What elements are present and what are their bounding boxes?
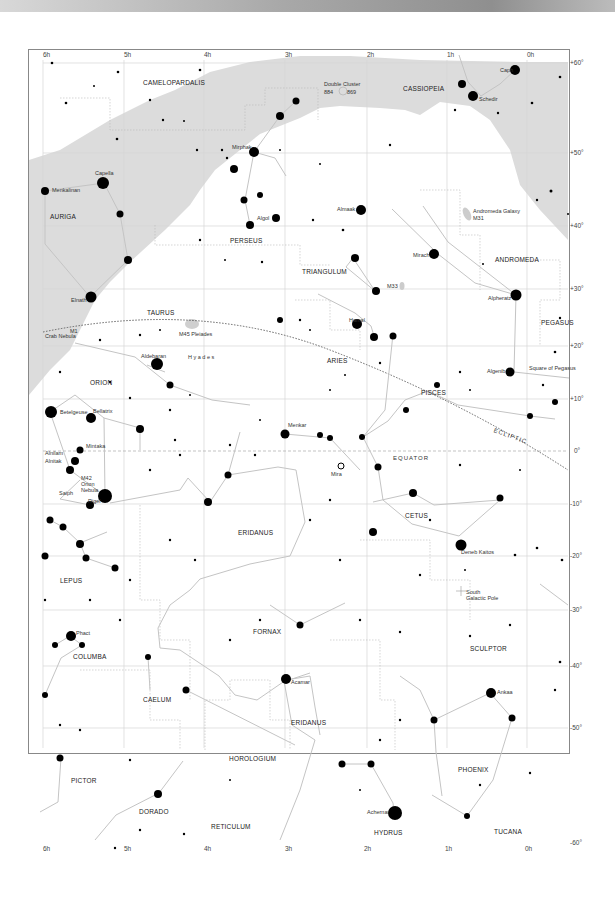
constellation-caelum: CAELUM [143, 697, 171, 704]
constellation-fornax: FORNAX [253, 629, 281, 636]
star-menkalinan: Menkalinan [52, 188, 80, 194]
star-aldebaran: Aldebaran [141, 354, 166, 360]
star-hamal: Hamal [349, 318, 365, 324]
constellation-triangulum: TRIANGULUM [302, 269, 347, 276]
star-algol: Algol [257, 216, 269, 222]
star-chart: 6h 5h 4h 3h 2h 1h 0h 6h 5h 4h 3h 2h 1h 0… [0, 0, 615, 905]
star-mira: Mira [331, 472, 342, 478]
star-chart-graphics [0, 0, 615, 905]
star-elnath: Elnath [71, 298, 87, 304]
constellation-orion: ORION [90, 380, 112, 387]
star-betelgeuse: Betelgeuse [60, 410, 88, 416]
star-algenib: Algenib [487, 369, 505, 375]
ra-label-top-1h: 1h [447, 52, 454, 59]
star-alnitak: Alnitak [45, 459, 62, 465]
constellation-auriga: AURIGA [50, 214, 76, 221]
dec-label-plus60: +60° [570, 60, 584, 67]
constellation-hydrus: HYDRUS [374, 830, 403, 837]
constellation-cetus: CETUS [405, 513, 428, 520]
dec-label-0: 0° [574, 448, 580, 455]
ra-label-bottom-2h: 2h [364, 846, 371, 853]
star-phact: Phact [76, 631, 90, 637]
constellation-tucana: TUCANA [494, 829, 522, 836]
square-of-pegasus-label: Square of Pegasus [529, 365, 576, 371]
south-galactic-pole-label-2: Galactic Pole [466, 595, 498, 601]
constellation-pegasus: PEGASUS [541, 320, 574, 327]
constellation-sculptor: SCULPTOR [470, 646, 507, 653]
constellation-columba: COLUMBA [73, 654, 107, 661]
m1-label: M1 [70, 328, 78, 334]
constellation-horologium: HOROLOGIUM [229, 756, 276, 763]
constellation-dorado: DORADO [139, 809, 169, 816]
star-achernar: Achernar [367, 810, 389, 816]
hyades-label: H y a d e s [188, 354, 214, 360]
m45-pleiades-label: M45 Pleiades [179, 331, 212, 337]
constellation-andromeda: ANDROMEDA [495, 257, 539, 264]
m33-label: M33 [387, 283, 398, 289]
constellation-pictor: PICTOR [71, 778, 97, 785]
dec-label-plus10: +10° [570, 396, 584, 403]
dec-label-minus30: -30° [570, 607, 582, 614]
ra-label-bottom-4h: 4h [204, 846, 211, 853]
equator-label: EQUATOR [393, 455, 429, 461]
star-bellatrix: Bellatrix [93, 409, 113, 415]
dec-label-minus60: -60° [570, 840, 582, 847]
m31-label: M31 [473, 215, 484, 221]
star-alpheratz: Alpheratz [488, 296, 511, 302]
dec-label-minus20: -20° [570, 553, 582, 560]
ra-label-bottom-6h: 6h [43, 846, 50, 853]
star-menkar: Menkar [288, 423, 306, 429]
star-saiph: Saiph [59, 491, 73, 497]
star-mirphak: Mirphak [232, 145, 252, 151]
constellation-cassiopeia: CASSIOPEIA [403, 86, 444, 93]
constellation-reticulum: RETICULUM [211, 824, 251, 831]
dec-label-plus20: +20° [570, 343, 584, 350]
ra-label-top-4h: 4h [204, 52, 211, 59]
constellation-aries: ARIES [327, 358, 348, 365]
constellation-lepus: LEPUS [60, 578, 82, 585]
ngc869-label: 869 [347, 89, 356, 95]
ra-label-bottom-3h: 3h [285, 846, 292, 853]
constellation-taurus: TAURUS [147, 310, 174, 317]
ra-label-top-2h: 2h [367, 52, 374, 59]
orion-nebula-label-2: Nebula [81, 487, 98, 493]
star-capella: Capella [95, 171, 114, 177]
dec-label-minus40: -40° [570, 663, 582, 670]
dec-label-plus30: +30° [570, 286, 584, 293]
constellation-eridanus-south: ERIDANUS [291, 720, 326, 727]
star-almaak: Almaak [337, 207, 355, 213]
star-mintaka: Mintaka [86, 444, 105, 450]
star-caph: Caph [500, 68, 513, 74]
ra-label-bottom-5h: 5h [124, 846, 131, 853]
ra-label-top-3h: 3h [285, 52, 292, 59]
dec-label-plus50: +50° [570, 150, 584, 157]
constellation-camelopardalis: CAMELOPARDALIS [143, 80, 205, 87]
star-acamar: Acamar [291, 680, 310, 686]
star-alnilam: Alnilam [45, 451, 63, 457]
andromeda-galaxy-label: Andromeda Galaxy [473, 208, 520, 214]
star-schedir: Schedir [479, 97, 498, 103]
constellation-eridanus-north: ERIDANUS [238, 530, 273, 537]
constellation-phoenix: PHOENIX [458, 767, 489, 774]
ngc884-label: 884 [324, 89, 333, 95]
dec-label-minus50: -50° [570, 725, 582, 732]
constellation-pisces: PISCES [421, 390, 446, 397]
ra-label-bottom-1h: 1h [445, 846, 452, 853]
dec-label-plus40: +40° [570, 223, 584, 230]
ra-label-top-6h: 6h [43, 52, 50, 59]
star-rigel: Rigel [88, 499, 101, 505]
star-mirach: Mirach [413, 253, 430, 259]
ra-label-top-0h: 0h [527, 52, 534, 59]
ra-label-bottom-0h: 0h [525, 846, 532, 853]
ra-label-top-5h: 5h [124, 52, 131, 59]
dec-label-minus10: -10° [570, 501, 582, 508]
star-ankaa: Ankaa [497, 690, 513, 696]
star-deneb-kaitos: Deneb Kaitos [461, 550, 494, 556]
constellation-perseus: PERSEUS [230, 238, 262, 245]
double-cluster-label: Double Cluster [324, 81, 360, 87]
